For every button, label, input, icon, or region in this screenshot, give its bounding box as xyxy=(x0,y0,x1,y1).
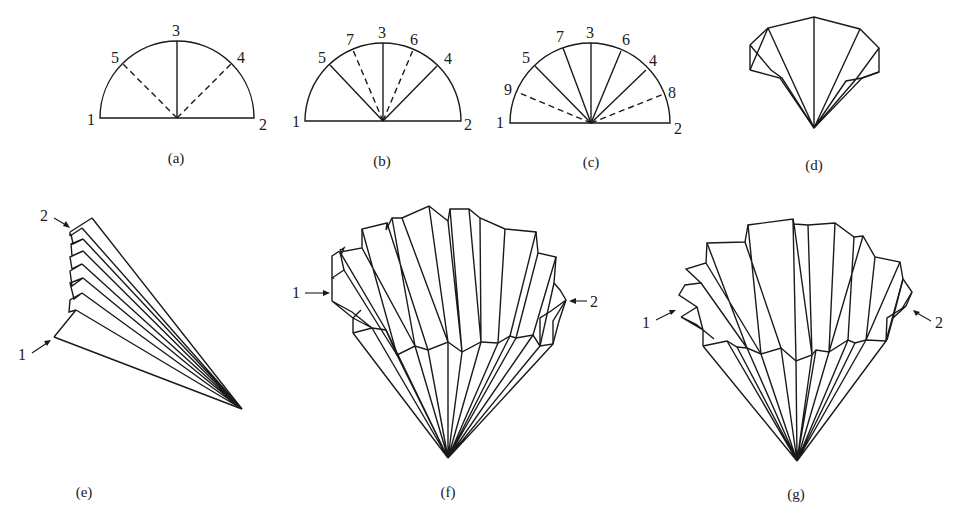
folding-diagram: 1 2 3 4 5 (a) 1 2 3 4 5 6 7 (b) 1 2 3 4 xyxy=(0,0,954,525)
panel-a: 1 2 3 4 5 (a) xyxy=(87,22,267,167)
point-label-1: 1 xyxy=(18,346,26,363)
point-label-7: 7 xyxy=(346,31,354,48)
point-label-2: 2 xyxy=(259,116,267,133)
arrow-label-1: 1 xyxy=(292,284,330,301)
upper-pleat-lines xyxy=(340,206,556,355)
point-label-5: 5 xyxy=(111,49,119,66)
arrow-label-2: 2 xyxy=(40,207,70,228)
point-label-6: 6 xyxy=(622,31,630,48)
point-label-3: 3 xyxy=(586,24,594,41)
fold-line-6 xyxy=(383,50,413,121)
arrow-label-2: 2 xyxy=(569,293,598,310)
fold-line-5 xyxy=(535,66,591,123)
point-label-4: 4 xyxy=(444,50,452,67)
fold-line-7 xyxy=(353,50,383,121)
left-flap xyxy=(681,307,714,346)
point-label-3: 3 xyxy=(172,22,180,39)
right-flap xyxy=(540,300,566,346)
caption-g: (g) xyxy=(787,486,805,503)
point-label-1: 1 xyxy=(642,314,650,331)
point-label-2: 2 xyxy=(590,293,598,310)
point-label-9: 9 xyxy=(504,81,512,98)
point-label-7: 7 xyxy=(556,28,564,45)
point-label-3: 3 xyxy=(378,24,386,41)
folded-cone-edges xyxy=(750,17,879,128)
point-label-2: 2 xyxy=(40,207,48,224)
panel-b: 1 2 3 4 5 6 7 (b) xyxy=(292,24,472,170)
caption-c: (c) xyxy=(583,154,600,171)
pleat-fold-lines xyxy=(70,228,242,409)
caption-a: (a) xyxy=(168,150,185,167)
fold-line-5 xyxy=(330,65,383,121)
caption-e: (e) xyxy=(76,484,93,501)
fold-line-5 xyxy=(122,63,177,118)
arrow-label-1: 1 xyxy=(18,340,51,363)
fold-line-4 xyxy=(383,66,437,121)
semicircle-outline xyxy=(510,43,670,123)
cone-lines xyxy=(703,340,886,461)
point-label-5: 5 xyxy=(522,49,530,66)
point-label-4: 4 xyxy=(237,49,245,66)
point-label-1: 1 xyxy=(496,114,504,131)
fold-line-4 xyxy=(177,63,232,118)
panel-f: 1 2 (f) xyxy=(292,206,598,501)
panel-e: 2 1 (e) xyxy=(18,207,242,501)
point-label-4: 4 xyxy=(649,52,657,69)
fold-line-6 xyxy=(591,51,621,123)
point-label-6: 6 xyxy=(410,31,418,48)
fold-line-4 xyxy=(591,70,646,123)
panel-g: 1 2 (g) xyxy=(642,219,943,503)
caption-f: (f) xyxy=(441,484,456,501)
point-label-1: 1 xyxy=(292,284,300,301)
point-label-2: 2 xyxy=(935,314,943,331)
panel-d: (d) xyxy=(750,17,879,174)
panel-c: 1 2 3 4 5 6 7 8 9 (c) xyxy=(496,24,682,171)
point-label-1: 1 xyxy=(87,111,95,128)
point-label-8: 8 xyxy=(668,84,676,101)
caption-d: (d) xyxy=(805,157,823,174)
cone-lines xyxy=(353,328,553,458)
caption-b: (b) xyxy=(373,153,391,170)
point-label-2: 2 xyxy=(464,116,472,133)
arrow-label-2: 2 xyxy=(913,310,943,331)
point-label-1: 1 xyxy=(292,113,300,130)
point-label-5: 5 xyxy=(318,49,326,66)
fold-line-9 xyxy=(517,92,591,123)
fold-line-7 xyxy=(563,48,591,123)
point-label-2: 2 xyxy=(674,120,682,137)
arrow-label-1: 1 xyxy=(642,310,676,331)
